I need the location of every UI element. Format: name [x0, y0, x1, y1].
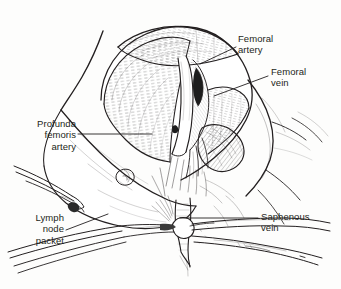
clamp-lower-right-lower — [192, 236, 322, 265]
label-lymph-node-packet: Lymph node packet — [6, 212, 64, 246]
label-femoral-artery: Femoral artery — [238, 33, 273, 56]
label-profunda-femoris-artery: Profunda femoris artery — [12, 118, 76, 152]
torso-contour — [61, 31, 103, 110]
label-femoral-vein: Femoral vein — [271, 66, 306, 89]
label-saphenous-vein: Saphenous vein — [261, 211, 310, 234]
anatomy-figure: Femoral artery Femoral vein Profunda fem… — [0, 0, 341, 289]
saphenous-ligature-bulb — [172, 218, 194, 239]
thigh-contour-lateral — [246, 80, 328, 224]
